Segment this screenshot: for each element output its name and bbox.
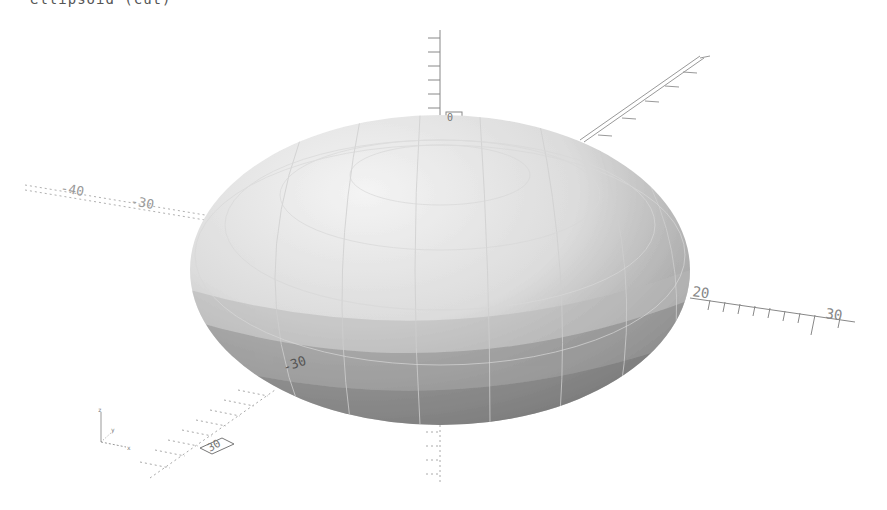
x-axis-negative: [25, 185, 205, 220]
z-axis-label-0: 0: [447, 112, 453, 123]
3d-viewport[interactable]: ellipsoid (cut): [0, 0, 887, 510]
gizmo-z-label: z: [98, 406, 102, 413]
x-axis-label-neg40: -40: [59, 180, 85, 199]
scene-canvas: -40 -30 20 30: [0, 0, 887, 510]
x-axis-label-30: 30: [825, 305, 844, 323]
ellipsoid-object[interactable]: -30: [190, 115, 690, 430]
x-axis-label-20: 20: [692, 283, 711, 301]
z-axis-negative: [426, 425, 440, 485]
gizmo-x-label: x: [127, 444, 131, 451]
x-axis-label-neg30: -30: [129, 193, 155, 212]
y-axis-positive: [580, 56, 710, 142]
z-axis: [428, 30, 462, 130]
gizmo-y-label: y: [111, 426, 115, 434]
y-axis-negative: [140, 390, 275, 478]
